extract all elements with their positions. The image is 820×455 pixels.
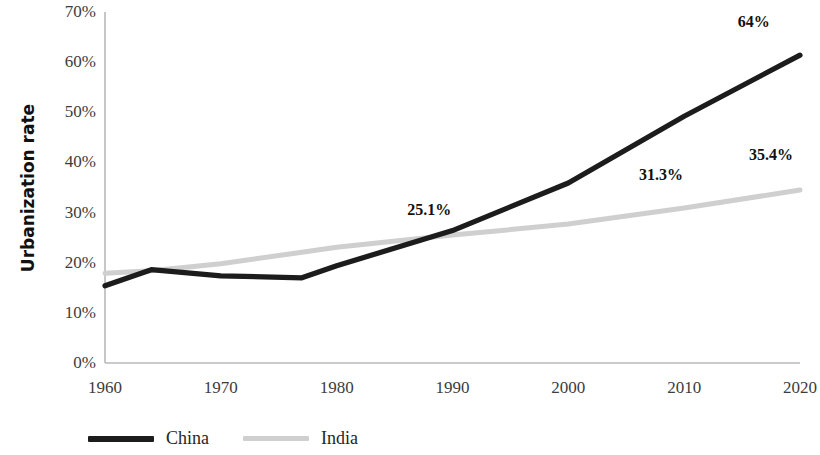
data-point-label: 31.3% bbox=[639, 166, 683, 184]
x-tick-label: 2020 bbox=[765, 378, 820, 398]
data-point-label: 25.1% bbox=[407, 201, 451, 219]
urbanization-rate-line-chart: Urbanization rate 0%10%20%30%40%50%60%70… bbox=[0, 0, 820, 455]
x-tick-label: 1960 bbox=[70, 378, 140, 398]
series-line-china bbox=[105, 55, 800, 286]
legend-line-swatch-china bbox=[88, 436, 154, 442]
x-tick-label: 1970 bbox=[186, 378, 256, 398]
series-paths bbox=[105, 55, 800, 286]
legend-line-swatch-india bbox=[243, 436, 309, 441]
axis-lines bbox=[105, 12, 800, 363]
legend-item-india[interactable]: India bbox=[243, 428, 358, 449]
x-tick-label: 1980 bbox=[302, 378, 372, 398]
x-tick-label: 2000 bbox=[533, 378, 603, 398]
legend-item-china[interactable]: China bbox=[88, 428, 209, 449]
legend-label-india: India bbox=[321, 428, 358, 449]
x-tick-label: 1990 bbox=[418, 378, 488, 398]
x-tick-label: 2010 bbox=[649, 378, 719, 398]
legend-label-china: China bbox=[166, 428, 209, 449]
data-point-label: 64% bbox=[738, 13, 770, 31]
chart-legend: China India bbox=[88, 428, 358, 449]
data-point-label: 35.4% bbox=[749, 146, 793, 164]
